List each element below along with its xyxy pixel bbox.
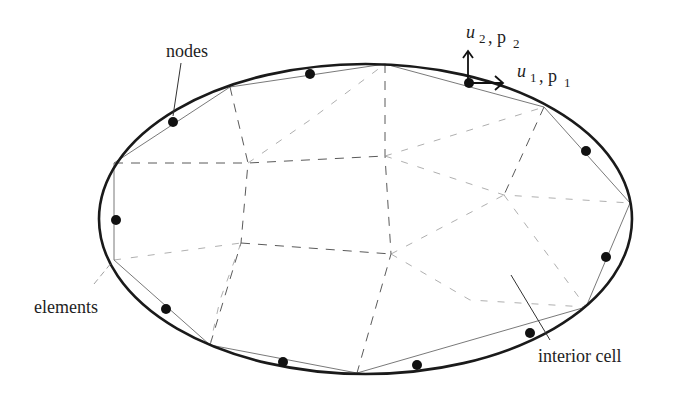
interior-cell-label: interior cell xyxy=(538,346,621,366)
node xyxy=(278,357,288,367)
node xyxy=(601,252,611,262)
u2-p2-label: u 2 , p 2 xyxy=(466,22,520,51)
cell-edge xyxy=(241,243,391,254)
cell-edge xyxy=(385,156,630,203)
cell-edge xyxy=(385,107,544,156)
node xyxy=(412,360,422,370)
u1-p1-label: u 1 , p 1 xyxy=(517,61,571,90)
boundary-nodes xyxy=(111,69,611,370)
node xyxy=(305,69,315,79)
node xyxy=(525,328,535,338)
cell-edge xyxy=(248,64,385,163)
domain-boundary xyxy=(99,64,632,374)
u2-symbol: u xyxy=(466,22,475,42)
u1-subscript: 1 xyxy=(530,70,537,85)
cell-edge xyxy=(391,254,586,307)
p1-symbol: , p xyxy=(539,66,557,86)
node xyxy=(111,215,121,225)
cell-edge xyxy=(210,87,248,345)
interior-cell-grid xyxy=(114,64,630,373)
node xyxy=(581,146,591,156)
cell-edge xyxy=(391,195,504,254)
node xyxy=(168,117,178,127)
elements-leader xyxy=(94,262,112,284)
boundary-element-diagram: nodes elements interior cell u 2 , p 2 u… xyxy=(0,0,680,394)
nodes-label: nodes xyxy=(166,41,208,61)
p1-subscript: 1 xyxy=(564,75,571,90)
cell-edge xyxy=(504,195,586,307)
cell-edge xyxy=(114,243,241,260)
u1-symbol: u xyxy=(517,61,526,81)
u2-subscript: 2 xyxy=(479,31,486,46)
p2-subscript: 2 xyxy=(513,36,520,51)
boundary-elements xyxy=(114,64,630,373)
cell-edge xyxy=(504,107,544,195)
cell-edge xyxy=(357,64,391,373)
node xyxy=(161,304,171,314)
elements-label: elements xyxy=(34,297,98,317)
p2-symbol: , p xyxy=(488,27,506,47)
